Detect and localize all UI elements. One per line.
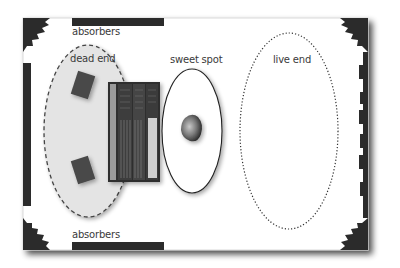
diagram-canvas [0, 0, 400, 268]
label-live-end: live end [273, 54, 311, 65]
studio-layout-diagram: absorbers absorbers dead end sweet spot … [0, 0, 400, 268]
label-sweet-spot: sweet spot [170, 54, 222, 65]
absorber-bottom [72, 242, 164, 250]
absorber-top [72, 18, 164, 26]
label-absorbers-top: absorbers [72, 26, 120, 37]
diffuser-right [359, 52, 368, 218]
label-absorbers-bottom: absorbers [72, 229, 120, 240]
absorber-left [23, 63, 31, 206]
mixing-console [108, 82, 160, 182]
label-dead-end: dead end [70, 53, 115, 64]
